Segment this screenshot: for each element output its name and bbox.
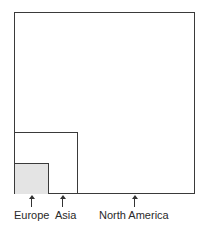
asia-arrow-icon — [62, 198, 63, 207]
north-america-label: North America — [99, 208, 169, 222]
europe-label: Europe — [14, 208, 49, 222]
europe-arrow-icon — [31, 198, 32, 207]
north-america-arrow-icon — [134, 198, 135, 207]
asia-label: Asia — [55, 208, 76, 222]
europe-square — [14, 163, 49, 194]
nested-squares-diagram: Europe Asia North America — [0, 0, 207, 234]
